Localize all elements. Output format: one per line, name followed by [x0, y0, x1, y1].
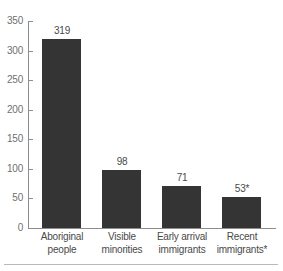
bar-value-label: 71	[158, 173, 206, 183]
x-axis-category-label-line: immigrants*	[208, 244, 276, 257]
x-axis-category-label: Early arrivalimmigrants	[148, 231, 216, 256]
x-axis-category-label: Aboriginalpeople	[28, 231, 96, 256]
bottom-divider	[4, 264, 278, 265]
y-axis-tick-label: 50	[0, 193, 23, 203]
x-axis-line	[28, 228, 276, 229]
x-axis-category-label-line: people	[28, 244, 96, 257]
bar	[162, 186, 201, 228]
x-axis-category-label-line: Early arrival	[148, 231, 216, 244]
y-axis-tick-label: 300	[0, 46, 23, 56]
y-axis-tick-label: 100	[0, 164, 23, 174]
x-axis-category-label: Visibleminorities	[88, 231, 156, 256]
y-axis-tick-label: 200	[0, 105, 23, 115]
x-axis-category-label-line: immigrants	[148, 244, 216, 257]
y-axis-tick-label: 350	[0, 16, 23, 26]
y-axis-tick-label: 0	[0, 223, 23, 233]
x-axis-category-label-line: Recent	[208, 231, 276, 244]
bars-layer	[28, 21, 276, 228]
y-axis-tick-label: 150	[0, 134, 23, 144]
bar	[222, 197, 261, 228]
x-axis-category-label-line: minorities	[88, 244, 156, 257]
bar-value-label: 319	[38, 26, 86, 36]
bar-value-label: 53*	[218, 184, 266, 194]
bar	[102, 170, 141, 228]
bar-value-label: 98	[98, 157, 146, 167]
bar	[42, 39, 81, 228]
x-axis-category-label: Recentimmigrants*	[208, 231, 276, 256]
y-axis-tick-label: 250	[0, 75, 23, 85]
x-axis-category-label-line: Aboriginal	[28, 231, 96, 244]
x-axis-category-label-line: Visible	[88, 231, 156, 244]
bar-chart: 050100150200250300350 319987153* Aborigi…	[0, 0, 283, 271]
y-axis-tick	[29, 228, 33, 229]
